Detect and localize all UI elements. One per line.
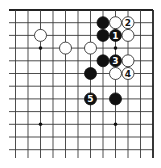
move-number-label: 4 xyxy=(125,69,131,79)
black-stone-move-5: 5 xyxy=(85,93,97,105)
white-stone-icon xyxy=(110,68,122,80)
black-stone-icon xyxy=(85,68,97,80)
white-stone-icon xyxy=(122,55,134,67)
black-stone xyxy=(97,29,109,41)
go-board: 21345 xyxy=(0,0,161,168)
black-stone-icon xyxy=(97,17,109,29)
black-stone-move-3: 3 xyxy=(110,55,122,67)
white-stone-icon xyxy=(122,29,134,41)
white-stone xyxy=(110,68,122,80)
star-point-icon xyxy=(39,46,43,50)
star-point-icon xyxy=(39,123,43,127)
white-stone xyxy=(85,42,97,54)
white-stone-icon xyxy=(60,42,72,54)
star-point-icon xyxy=(114,123,118,127)
black-stone-icon xyxy=(97,55,109,67)
white-stone-icon xyxy=(110,17,122,29)
move-number-label: 2 xyxy=(125,18,131,28)
move-number-label: 3 xyxy=(112,56,118,66)
white-stone xyxy=(122,55,134,67)
white-stone-icon xyxy=(85,42,97,54)
move-number-label: 5 xyxy=(87,94,93,104)
black-stone-icon xyxy=(97,29,109,41)
white-stone-move-2: 2 xyxy=(122,17,134,29)
white-stone xyxy=(35,29,47,41)
black-stone xyxy=(110,93,122,105)
black-stone-icon xyxy=(110,93,122,105)
black-stone xyxy=(85,68,97,80)
white-stone xyxy=(122,29,134,41)
white-stone xyxy=(60,42,72,54)
black-stone xyxy=(97,17,109,29)
black-stone xyxy=(97,55,109,67)
move-number-label: 1 xyxy=(112,31,118,41)
black-stone-move-1: 1 xyxy=(110,29,122,41)
white-stone xyxy=(110,17,122,29)
white-stone-move-4: 4 xyxy=(122,68,134,80)
white-stone-icon xyxy=(35,29,47,41)
star-point-icon xyxy=(114,46,118,50)
